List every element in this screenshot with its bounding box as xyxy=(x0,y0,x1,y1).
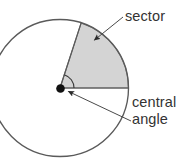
sector-label: sector xyxy=(125,8,165,24)
geometry-diagram-figure: sector central angle xyxy=(0,0,190,165)
central-angle-label-line2: angle xyxy=(132,111,168,127)
central-angle-label-line1: central xyxy=(132,94,176,110)
center-point-dot xyxy=(56,84,65,93)
sector-leader-line xyxy=(95,17,124,40)
central-angle-leader-line xyxy=(69,92,132,122)
diagram-canvas: sector central angle xyxy=(0,0,190,165)
